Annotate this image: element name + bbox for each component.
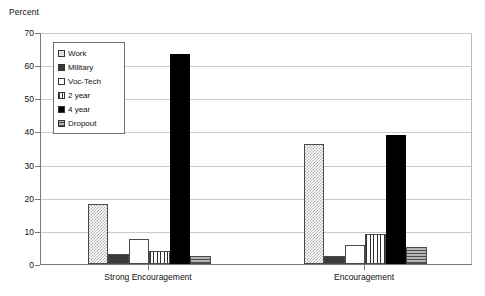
legend-swatch-icon (58, 64, 65, 71)
y-tick-label: 70 (8, 29, 34, 38)
bar-work-group-1 (88, 204, 109, 264)
y-tick-mark (35, 232, 40, 233)
y-tick-label: 50 (8, 95, 34, 104)
bar-chart: Percent 010203040506070 Strong Encourage… (0, 0, 485, 296)
bar-military-group-2 (324, 256, 345, 264)
y-tick-mark (35, 33, 40, 34)
y-tick-label: 30 (8, 161, 34, 170)
y-tick-mark (35, 166, 40, 167)
bar-dropout-group-1 (190, 256, 211, 264)
legend-item-label: Voc-Tech (68, 77, 101, 86)
bar-4-year-group-2 (386, 135, 407, 264)
bar-4-year-group-1 (170, 54, 191, 264)
bar-military-group-1 (108, 254, 129, 264)
legend-item-dropout[interactable]: Dropout (58, 116, 120, 130)
y-tick-mark (35, 66, 40, 67)
legend-swatch-icon (58, 50, 65, 57)
bar-voc-tech-group-2 (345, 245, 366, 264)
x-tick-mark (364, 265, 365, 270)
y-tick-label: 10 (8, 227, 34, 236)
y-axis-title: Percent (9, 7, 39, 17)
legend-swatch-icon (58, 120, 65, 127)
y-tick-label: 60 (8, 62, 34, 71)
legend-item-label: Military (68, 63, 93, 72)
legend-item-work[interactable]: Work (58, 46, 120, 60)
y-tick-label: 0 (8, 261, 34, 270)
legend-item-2-year[interactable]: 2 year (58, 88, 120, 102)
legend-item-label: 4 year (68, 105, 90, 114)
legend-item-voc-tech[interactable]: Voc-Tech (58, 74, 120, 88)
bar-voc-tech-group-1 (129, 239, 150, 264)
gridline (41, 33, 472, 34)
x-tick-label: Encouragement (334, 272, 394, 282)
gridline (41, 199, 472, 200)
y-tick-mark (35, 132, 40, 133)
y-tick-mark (35, 265, 40, 266)
bar-dropout-group-2 (406, 247, 427, 264)
chart-legend: WorkMilitaryVoc-Tech2 year4 yearDropout (53, 42, 125, 134)
legend-item-label: Work (68, 49, 87, 58)
y-tick-label: 20 (8, 194, 34, 203)
legend-swatch-icon (58, 106, 65, 113)
legend-item-4-year[interactable]: 4 year (58, 102, 120, 116)
x-tick-label: Strong Encouragement (104, 272, 191, 282)
y-tick-mark (35, 199, 40, 200)
legend-item-label: Dropout (68, 119, 96, 128)
x-tick-mark (148, 265, 149, 270)
legend-item-label: 2 year (68, 91, 90, 100)
bar-work-group-2 (304, 144, 325, 264)
legend-swatch-icon (58, 78, 65, 85)
bar-2-year-group-2 (365, 234, 386, 264)
gridline (41, 166, 472, 167)
legend-swatch-icon (58, 92, 65, 99)
legend-item-military[interactable]: Military (58, 60, 120, 74)
y-tick-label: 40 (8, 128, 34, 137)
bar-2-year-group-1 (149, 251, 170, 264)
y-axis-tick-labels: 010203040506070 (0, 33, 34, 265)
y-tick-mark (35, 99, 40, 100)
